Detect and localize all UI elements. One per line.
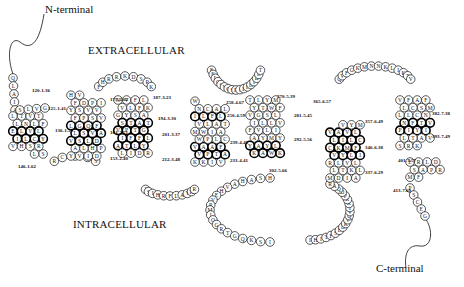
svg-text:C: C xyxy=(415,112,419,118)
svg-text:S: S xyxy=(140,76,143,82)
residue: P xyxy=(88,99,97,108)
residue: W xyxy=(191,97,200,106)
residue: S xyxy=(26,142,35,151)
svg-text:N: N xyxy=(369,63,373,69)
svg-text:V: V xyxy=(99,115,103,121)
position-label: 239-4.48 xyxy=(230,140,248,145)
residue: C xyxy=(204,105,213,114)
svg-text:A: A xyxy=(73,145,77,151)
svg-text:C: C xyxy=(223,136,227,142)
residue: V xyxy=(84,106,93,115)
svg-text:R: R xyxy=(220,226,224,232)
residue: I xyxy=(191,112,200,121)
residue: A xyxy=(217,127,226,136)
residue: D xyxy=(334,174,343,183)
residue: S xyxy=(88,114,97,123)
svg-text:V: V xyxy=(332,152,336,158)
svg-text:I: I xyxy=(269,239,271,245)
svg-text:V: V xyxy=(86,107,90,113)
svg-text:Y: Y xyxy=(69,153,73,159)
residue: S xyxy=(417,103,426,112)
svg-text:S: S xyxy=(82,130,85,136)
svg-text:C: C xyxy=(33,136,37,142)
position-label: 136-1.52 xyxy=(55,128,73,133)
snake-plot-diagram: QLAIALTVTFLNLELVLYCLIVHSRSLSLVGRCRPSYVID… xyxy=(0,0,464,287)
residue: H xyxy=(238,177,247,186)
residue: L xyxy=(263,126,272,135)
svg-text:W: W xyxy=(269,105,275,111)
svg-text:M: M xyxy=(362,64,367,70)
svg-text:V: V xyxy=(197,121,201,127)
residue: S xyxy=(263,111,272,120)
residue: K xyxy=(247,236,256,245)
svg-text:A: A xyxy=(261,150,265,156)
residue: I xyxy=(250,119,259,128)
residue: L xyxy=(217,112,226,121)
svg-text:D: D xyxy=(82,100,86,106)
residue: D xyxy=(135,149,144,158)
svg-text:H: H xyxy=(91,145,95,151)
svg-text:I: I xyxy=(87,153,89,159)
position-label: 201-3.37 xyxy=(162,132,180,137)
svg-text:D: D xyxy=(138,150,142,156)
svg-text:F: F xyxy=(417,174,420,180)
svg-text:A: A xyxy=(257,143,261,149)
residue: D xyxy=(80,99,89,108)
svg-text:A: A xyxy=(210,144,214,150)
svg-text:V: V xyxy=(409,76,413,82)
residue: A xyxy=(247,175,256,184)
svg-text:A: A xyxy=(337,129,341,135)
svg-text:F: F xyxy=(74,100,77,106)
residue: A xyxy=(259,149,268,158)
position-label: 146-1.62 xyxy=(18,164,36,169)
svg-text:C: C xyxy=(206,106,210,112)
svg-text:V: V xyxy=(428,120,432,126)
residue: L xyxy=(221,105,230,114)
residue: A xyxy=(352,174,361,183)
position-label: 270-5.39 xyxy=(277,94,295,99)
svg-text:V: V xyxy=(398,97,402,103)
svg-text:S: S xyxy=(121,120,124,126)
residue: K xyxy=(276,149,285,158)
svg-text:G: G xyxy=(423,213,427,219)
residue: L xyxy=(131,141,140,150)
svg-text:I: I xyxy=(342,137,344,143)
svg-text:C: C xyxy=(416,199,420,205)
residue: K xyxy=(413,141,422,150)
svg-text:M: M xyxy=(428,105,433,111)
residue: V xyxy=(343,128,352,137)
svg-text:F: F xyxy=(42,121,45,127)
residue: Q xyxy=(9,74,18,83)
residue: Q xyxy=(238,234,247,243)
position-label: 164-2.51 xyxy=(110,130,128,135)
residue: C xyxy=(409,103,418,112)
svg-text:V: V xyxy=(35,106,39,112)
svg-text:W: W xyxy=(192,98,198,104)
svg-text:Y: Y xyxy=(341,152,345,158)
residue: V xyxy=(191,143,200,152)
svg-text:V: V xyxy=(257,127,261,133)
residue: V xyxy=(276,119,285,128)
svg-text:F: F xyxy=(129,135,132,141)
residue: F xyxy=(276,103,285,112)
position-label: 401-7.57 xyxy=(398,158,416,163)
position-label: 357-6.49 xyxy=(365,119,383,124)
residue: S xyxy=(410,165,419,174)
svg-text:F: F xyxy=(211,113,214,119)
residue: A xyxy=(114,141,123,150)
residue: I xyxy=(208,127,217,136)
residue: K xyxy=(147,82,156,91)
svg-text:A: A xyxy=(249,177,253,183)
svg-text:D: D xyxy=(434,159,438,165)
svg-text:V: V xyxy=(91,130,95,136)
svg-text:V: V xyxy=(345,160,349,166)
residue: F xyxy=(217,143,226,152)
svg-text:I: I xyxy=(211,159,213,165)
residue: L xyxy=(352,128,361,137)
svg-text:Y: Y xyxy=(261,135,265,141)
position-label: 337-6.29 xyxy=(365,170,383,175)
svg-text:V: V xyxy=(120,105,124,111)
residue: I xyxy=(272,126,281,135)
position-label: 302-5.66 xyxy=(269,168,287,173)
position-label: 153-2.40 xyxy=(110,156,128,161)
